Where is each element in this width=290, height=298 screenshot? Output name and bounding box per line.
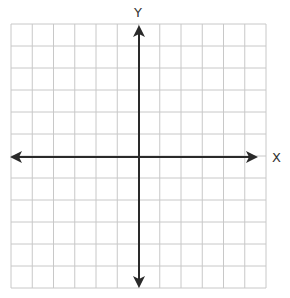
x-axis-label: X bbox=[272, 150, 281, 165]
x-axis bbox=[10, 151, 258, 163]
coordinate-plane: X Y bbox=[0, 0, 290, 298]
y-axis-label: Y bbox=[133, 5, 142, 20]
